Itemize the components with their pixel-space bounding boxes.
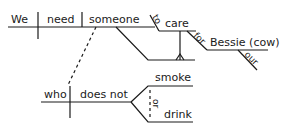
sentence-diagram: We need someone to care for Bessie (cow)… [0,0,284,129]
does-not-word: does not [80,88,128,101]
our-word: our [243,49,261,67]
for-word: for [192,30,208,46]
drink-word: drink [164,108,193,121]
smoke-word: smoke [155,71,191,84]
fork-upper [131,86,193,102]
to-word: to [150,13,164,26]
relative-connector [68,27,96,85]
care-word: care [165,17,189,30]
diagram-canvas: We need someone to care for Bessie (cow)… [0,0,284,129]
or-word: or [151,99,161,109]
verb-word: need [47,13,75,26]
object-word: someone [89,13,140,26]
bessie-word: Bessie (cow) [210,36,279,49]
infinitive-connector [116,27,195,60]
who-word: who [44,88,67,101]
subject-word: We [11,13,28,26]
